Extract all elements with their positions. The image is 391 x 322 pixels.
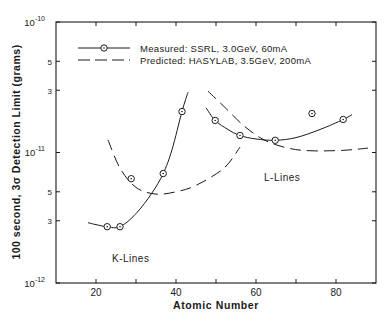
measured-outlier-point-dot (130, 178, 132, 180)
y-tick-label: 10-10 (24, 15, 45, 28)
x-tick-label: 60 (250, 287, 262, 298)
legend-measured-label: Measured: SSRL, 3.0GeV, 60mA (140, 43, 288, 54)
k-lines-annotation: K-Lines (112, 253, 149, 264)
x-axis-label: Atomic Number (173, 299, 259, 311)
legend-marker-dot (103, 47, 105, 49)
legend-predicted-label: Predicted: HASYLAB, 3.5GeV, 200mA (140, 55, 312, 66)
x-tick-label: 20 (90, 287, 102, 298)
x-tick-label: 40 (170, 287, 182, 298)
measured-outlier-point-dot (311, 113, 313, 115)
measured-point-dot (162, 173, 164, 175)
measured-point-dot (214, 120, 216, 122)
y-tick-label: 5 (48, 188, 53, 197)
y-tick-label: 3 (48, 217, 53, 226)
y-tick-label: 10-12 (24, 276, 45, 289)
measured-point-dot (342, 119, 344, 121)
measured-curve-k-lines (88, 92, 188, 228)
measured-point-dot (239, 135, 241, 137)
l-lines-annotation: L-Lines (264, 172, 300, 183)
measured-point-dot (274, 140, 276, 142)
y-tick-label: 10-11 (25, 145, 45, 158)
measured-point-dot (181, 111, 183, 113)
measured-point-dot (106, 226, 108, 228)
y-tick-label: 3 (48, 87, 53, 96)
data-curves (88, 91, 368, 228)
measured-point-dot (119, 226, 121, 228)
y-axis-label: 100 second, 3σ Detection Limit (grams) (10, 44, 22, 259)
detection-limit-chart: 2040608010-123510-113510-10 Atomic Numbe… (0, 0, 391, 322)
measured-curve-l-lines (206, 108, 352, 141)
y-tick-label: 5 (48, 58, 53, 67)
data-markers (104, 108, 346, 230)
predicted-curve-k-lines (108, 140, 240, 194)
x-tick-label: 80 (330, 287, 342, 298)
legend: Measured: SSRL, 3.0GeV, 60mA Predicted: … (78, 43, 312, 66)
